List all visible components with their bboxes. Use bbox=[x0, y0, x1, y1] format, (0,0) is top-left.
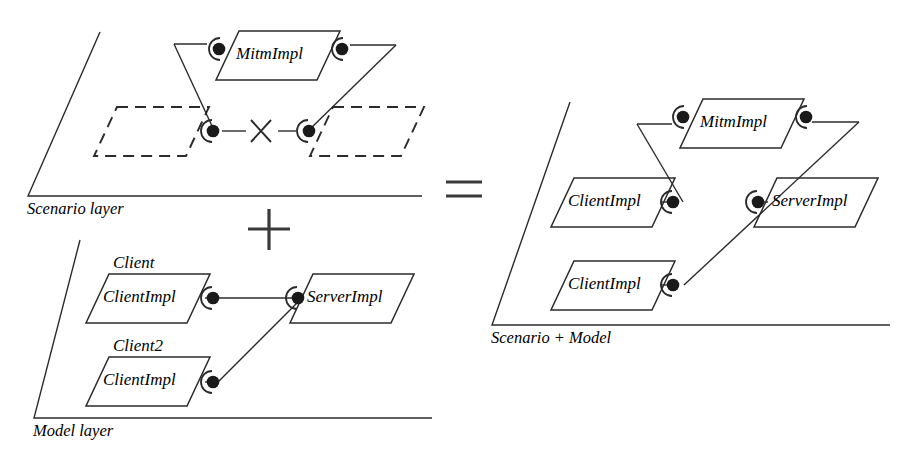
times-operator bbox=[251, 120, 271, 142]
model-server-label: ServerImpl bbox=[307, 287, 383, 307]
model-client1-role: Client bbox=[113, 253, 155, 273]
scenario-left-placeholder-shape bbox=[94, 107, 209, 156]
result-mitm-left-port[interactable] bbox=[673, 106, 689, 128]
model-layer-panel bbox=[34, 240, 432, 418]
result-layer-panel bbox=[492, 99, 890, 325]
model-client2-port[interactable] bbox=[201, 371, 219, 393]
scenario-right-placeholder-shape bbox=[310, 107, 424, 156]
diagram-canvas: MitmImpl Scenario layer Client ClientImp… bbox=[0, 0, 912, 468]
scenario-right-placeholder-port[interactable] bbox=[297, 120, 315, 142]
model-link-client2-server bbox=[218, 300, 300, 382]
plus-operator bbox=[248, 209, 290, 250]
model-client2-label: ClientImpl bbox=[103, 370, 176, 390]
scenario-mitm-label: MitmImpl bbox=[236, 44, 303, 64]
model-client1-port[interactable] bbox=[201, 287, 219, 309]
scenario-layer-label: Scenario layer bbox=[27, 199, 124, 219]
scenario-layer-panel bbox=[28, 31, 424, 196]
composition-diagram bbox=[0, 0, 912, 468]
mitm-left-port[interactable] bbox=[209, 38, 225, 60]
result-server-label: ServerImpl bbox=[772, 191, 848, 211]
equals-operator bbox=[446, 182, 482, 196]
result-layer-label: Scenario + Model bbox=[491, 328, 611, 348]
scenario-layer-plane bbox=[28, 32, 422, 196]
model-layer-label: Model layer bbox=[33, 421, 113, 441]
result-client1-label: ClientImpl bbox=[568, 191, 641, 211]
model-client1-label: ClientImpl bbox=[103, 287, 176, 307]
model-client2-role: Client2 bbox=[113, 336, 163, 356]
result-client2-label: ClientImpl bbox=[568, 274, 641, 294]
mitm-right-port[interactable] bbox=[332, 38, 348, 60]
result-mitm-right-port[interactable] bbox=[796, 106, 812, 128]
scenario-left-delegation-line bbox=[174, 44, 212, 126]
result-mitm-label: MitmImpl bbox=[700, 112, 767, 132]
